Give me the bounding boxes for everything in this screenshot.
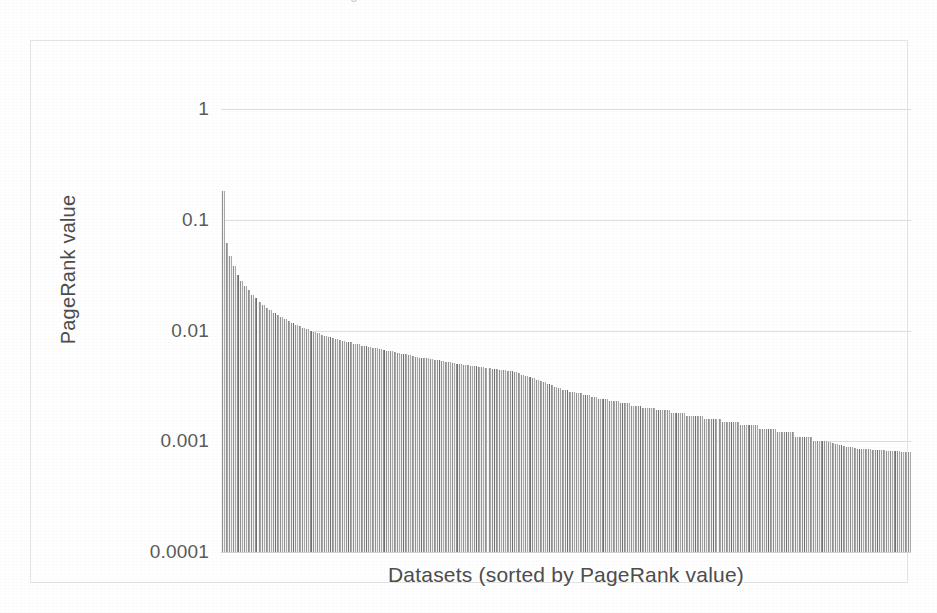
bar xyxy=(907,452,911,552)
gridline xyxy=(221,552,911,553)
y-axis-title: PageRank value xyxy=(57,170,80,370)
y-axis-tick-label: 0.0001 xyxy=(150,541,209,563)
plot-area xyxy=(221,109,911,552)
cropped-header-text: PageRank value distribution across datas… xyxy=(0,0,937,11)
bar-series xyxy=(221,109,911,552)
y-axis-tick-label: 0.001 xyxy=(160,430,209,452)
y-axis-tick-label: 0.1 xyxy=(182,209,209,231)
chart-frame: PageRank value 0.00010.0010.010.11 Datas… xyxy=(30,40,908,583)
x-axis-title: Datasets (sorted by PageRank value) xyxy=(221,563,911,587)
y-axis-tick-label: 1 xyxy=(198,98,209,120)
cropped-header-text-label: PageRank value distribution across datas… xyxy=(0,0,937,2)
y-axis-tick-label: 0.01 xyxy=(171,320,209,342)
